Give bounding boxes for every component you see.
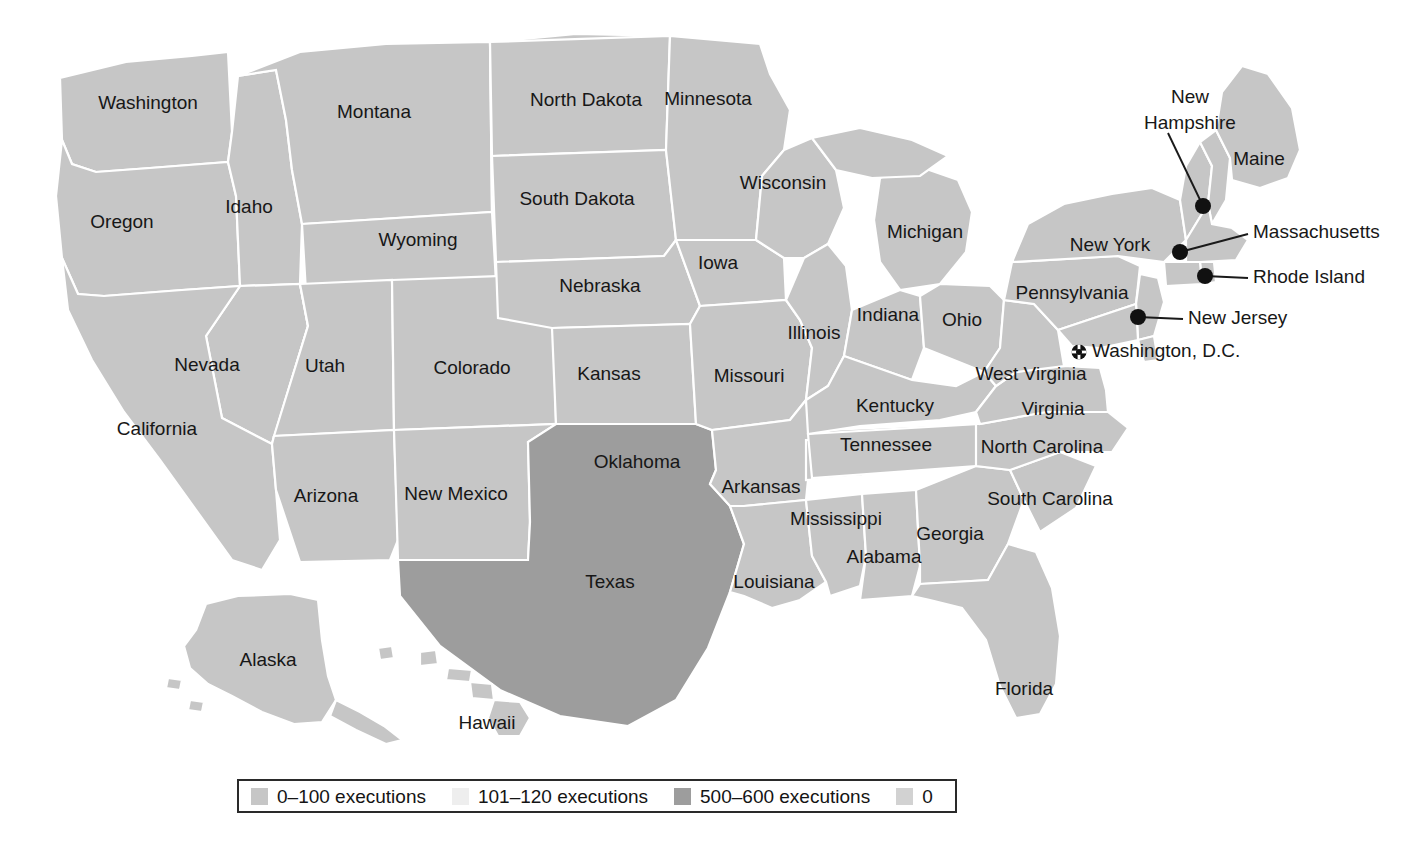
- map-legend: 0–100 executions101–120 executions500–60…: [237, 779, 957, 813]
- state-label-arizona: Arizona: [294, 485, 359, 506]
- us-executions-map-figure: WashingtonOregonIdahoMontanaWyomingNorth…: [0, 0, 1427, 854]
- state-alaska-aleutians-1[interactable]: [166, 678, 182, 690]
- state-label-north-dakota: North Dakota: [530, 89, 642, 110]
- state-label-oklahoma: Oklahoma: [594, 451, 681, 472]
- state-label-minnesota: Minnesota: [664, 88, 752, 109]
- state-hawaii-kauai[interactable]: [378, 646, 394, 660]
- legend-label-1: 101–120 executions: [478, 787, 648, 806]
- state-label-florida: Florida: [995, 678, 1054, 699]
- state-label-montana: Montana: [337, 101, 411, 122]
- legend-label-3: 0: [922, 787, 933, 806]
- legend-swatch-3: [896, 788, 913, 805]
- callout-dot-new-jersey[interactable]: [1130, 309, 1146, 325]
- markers-layer: Washington, D.C.: [1072, 340, 1241, 361]
- state-label-iowa: Iowa: [698, 252, 739, 273]
- state-alaska-aleutians-2[interactable]: [188, 700, 204, 712]
- state-label-new-mexico: New Mexico: [404, 483, 507, 504]
- legend-item-1[interactable]: 101–120 executions: [452, 787, 648, 806]
- callout-dot-new-hampshire[interactable]: [1195, 198, 1211, 214]
- state-label-kentucky: Kentucky: [856, 395, 935, 416]
- state-alabama[interactable]: [860, 490, 920, 600]
- callout-label-new-jersey: New Jersey: [1188, 307, 1288, 328]
- state-label-alabama: Alabama: [847, 546, 922, 567]
- state-label-wisconsin: Wisconsin: [740, 172, 827, 193]
- state-label-oregon: Oregon: [90, 211, 153, 232]
- state-label-texas: Texas: [585, 571, 635, 592]
- state-label-south-dakota: South Dakota: [519, 188, 635, 209]
- state-label-washington: Washington: [98, 92, 198, 113]
- legend-item-3[interactable]: 0: [896, 787, 933, 806]
- callout-label-massachusetts: Massachusetts: [1253, 221, 1380, 242]
- legend-label-0: 0–100 executions: [277, 787, 426, 806]
- state-label-nevada: Nevada: [174, 354, 240, 375]
- legend-item-0[interactable]: 0–100 executions: [251, 787, 426, 806]
- state-label-hawaii: Hawaii: [458, 712, 515, 733]
- state-label-arkansas: Arkansas: [721, 476, 800, 497]
- state-label-utah: Utah: [305, 355, 345, 376]
- callout-dot-massachusetts[interactable]: [1172, 244, 1188, 260]
- state-label-california: California: [117, 418, 198, 439]
- legend-item-2[interactable]: 500–600 executions: [674, 787, 870, 806]
- legend-swatch-1: [452, 788, 469, 805]
- state-label-mississippi: Mississippi: [790, 508, 882, 529]
- state-label-alaska: Alaska: [239, 649, 296, 670]
- marker-washington-d-c-[interactable]: Washington, D.C.: [1072, 340, 1241, 361]
- us-map-svg: WashingtonOregonIdahoMontanaWyomingNorth…: [0, 0, 1427, 854]
- state-label-maine: Maine: [1233, 148, 1285, 169]
- state-label-wyoming: Wyoming: [378, 229, 457, 250]
- state-label-tennessee: Tennessee: [840, 434, 932, 455]
- state-hawaii-oahu[interactable]: [420, 650, 438, 666]
- legend-swatch-0: [251, 788, 268, 805]
- state-label-south-carolina: South Carolina: [987, 488, 1113, 509]
- state-label-louisiana: Louisiana: [733, 571, 815, 592]
- state-hawaii-molokai[interactable]: [446, 668, 472, 682]
- state-label-new-york: New York: [1070, 234, 1151, 255]
- state-label-west-virginia: West Virginia: [975, 363, 1087, 384]
- legend-swatch-2: [674, 788, 691, 805]
- state-label-colorado: Colorado: [433, 357, 510, 378]
- capital-center-dot-icon: [1076, 349, 1082, 355]
- state-label-indiana: Indiana: [857, 304, 920, 325]
- state-hawaii-maui[interactable]: [470, 682, 494, 700]
- state-label-idaho: Idaho: [225, 196, 273, 217]
- state-label-missouri: Missouri: [714, 365, 785, 386]
- state-label-illinois: Illinois: [788, 322, 841, 343]
- callout-dot-rhode-island[interactable]: [1197, 268, 1213, 284]
- state-label-pennsylvania: Pennsylvania: [1015, 282, 1128, 303]
- state-label-nebraska: Nebraska: [559, 275, 641, 296]
- state-connecticut[interactable]: [1164, 262, 1202, 286]
- state-label-virginia: Virginia: [1021, 398, 1084, 419]
- state-label-michigan: Michigan: [887, 221, 963, 242]
- legend-label-2: 500–600 executions: [700, 787, 870, 806]
- state-label-north-carolina: North Carolina: [981, 436, 1104, 457]
- state-label-ohio: Ohio: [942, 309, 982, 330]
- state-label-kansas: Kansas: [577, 363, 640, 384]
- callout-label-rhode-island: Rhode Island: [1253, 266, 1365, 287]
- state-label-georgia: Georgia: [916, 523, 984, 544]
- marker-label-washington-d-c-: Washington, D.C.: [1092, 340, 1240, 361]
